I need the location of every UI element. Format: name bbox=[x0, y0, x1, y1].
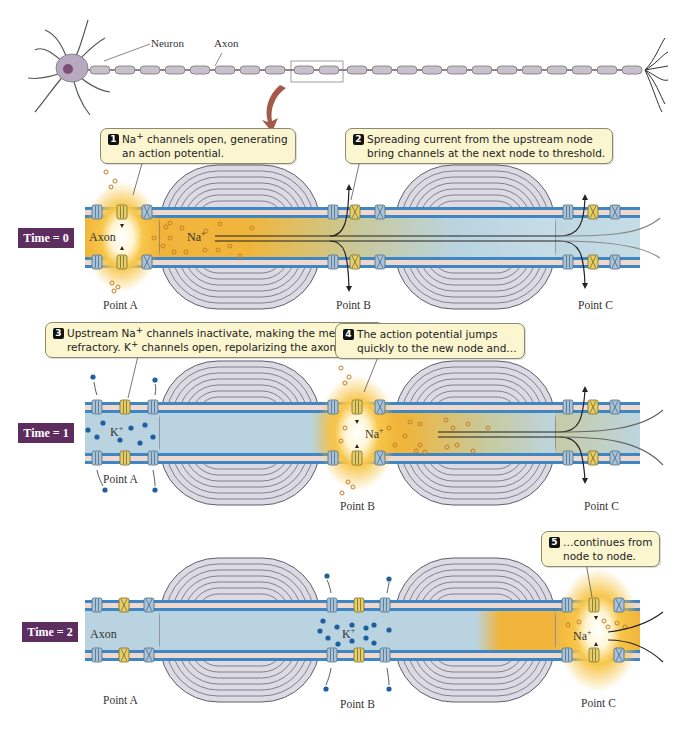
ion-symbol: K bbox=[110, 425, 119, 439]
callout-text: refractory. K bbox=[53, 341, 131, 353]
callout-2: 2Spreading current from the upstream nod… bbox=[345, 128, 613, 164]
point-a-label: Point A bbox=[103, 299, 138, 311]
nucleus bbox=[63, 64, 73, 74]
callout-text: …continues from bbox=[563, 536, 652, 548]
ion-symbol: Na bbox=[573, 629, 587, 643]
time-label-2: Time = 2 bbox=[22, 622, 78, 642]
point-b-label: Point B bbox=[336, 299, 371, 311]
point-b-label: Point B bbox=[340, 500, 375, 512]
point-c-label: Point C bbox=[584, 500, 619, 512]
axon-label: Axon bbox=[90, 627, 117, 642]
callout-text: quickly to the new node and… bbox=[343, 342, 517, 354]
point-a-label: Point A bbox=[103, 694, 138, 706]
ion-charge: + bbox=[201, 229, 206, 238]
callout-text: an action potential. bbox=[108, 147, 224, 159]
callout-text: Upstream Na bbox=[67, 327, 136, 339]
callout-text: Na bbox=[122, 133, 136, 145]
callout-text: node to node. bbox=[549, 550, 636, 562]
time-label-1: Time = 1 bbox=[18, 423, 74, 443]
ion-symbol: Na bbox=[365, 427, 379, 441]
callout-text: The action potential jumps bbox=[357, 328, 498, 340]
zoom-arrow bbox=[262, 85, 286, 132]
step-number-badge: 5 bbox=[549, 537, 560, 548]
time-label-0: Time = 0 bbox=[18, 228, 74, 248]
callout-3: 3Upstream Na+ channels inactivate, makin… bbox=[45, 322, 384, 358]
point-b-label: Point B bbox=[340, 698, 375, 710]
axon-overview-label: Axon bbox=[214, 37, 238, 49]
step-number-badge: 3 bbox=[53, 328, 64, 339]
axon-terminal bbox=[645, 38, 668, 112]
overview-neuron bbox=[28, 20, 668, 132]
callout-5: 5…continues from node to node. bbox=[541, 531, 660, 567]
na-ion-label: Na+ bbox=[573, 629, 592, 644]
superscript: + bbox=[136, 131, 143, 141]
point-c-label: Point C bbox=[578, 299, 613, 311]
point-a-label: Point A bbox=[103, 473, 138, 485]
ion-charge: + bbox=[587, 628, 592, 637]
step-number-badge: 2 bbox=[353, 134, 364, 145]
k-ion-label: K+ bbox=[342, 627, 355, 642]
myelin-segments bbox=[90, 66, 642, 74]
step-number-badge: 1 bbox=[108, 134, 119, 145]
ion-symbol: K bbox=[342, 627, 351, 641]
na-ion-label: Na+ bbox=[365, 427, 384, 442]
point-c-label: Point C bbox=[581, 697, 616, 709]
step-number-badge: 4 bbox=[343, 329, 354, 340]
ion-symbol: Na bbox=[187, 230, 201, 244]
panel-time-0 bbox=[84, 160, 660, 309]
saltatory-conduction-diagram: Neuron Axon 1Na+ channels open, generati… bbox=[0, 0, 689, 729]
action-potential-burst bbox=[317, 375, 397, 491]
callout-text: channels open, repolarizing the axon. bbox=[138, 341, 339, 353]
neuron-leader-line bbox=[104, 44, 150, 61]
callout-text: channels open, generating bbox=[144, 133, 288, 145]
diagram-artwork bbox=[0, 0, 689, 729]
ion-charge: + bbox=[351, 626, 356, 635]
callout-text: bring channels at the next node to thres… bbox=[353, 147, 605, 159]
callout-4: 4The action potential jumps quickly to t… bbox=[335, 323, 525, 359]
k-ion-label: K+ bbox=[110, 425, 123, 440]
ion-charge: + bbox=[119, 424, 124, 433]
na-ion-label: Na+ bbox=[187, 230, 206, 245]
callout-text: Spreading current from the upstream node bbox=[367, 133, 593, 145]
axon-label: Axon bbox=[89, 230, 116, 245]
action-potential-burst bbox=[556, 568, 640, 692]
ion-charge: + bbox=[379, 426, 384, 435]
axon-leader-line bbox=[215, 53, 222, 66]
callout-1: 1Na+ channels open, generating an action… bbox=[100, 128, 296, 164]
neuron-label: Neuron bbox=[151, 37, 184, 49]
